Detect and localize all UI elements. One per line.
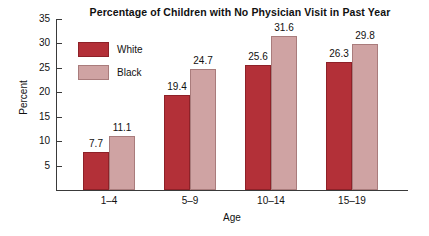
x-axis-group-label: 5–9 [155, 195, 225, 206]
y-axis-tick-label: 20 [16, 87, 50, 97]
bar-black [190, 69, 216, 190]
x-axis-group-label: 1–4 [74, 195, 144, 206]
bar-white [245, 65, 271, 190]
legend-swatch-white [78, 42, 109, 57]
bar-value-label: 24.7 [183, 56, 223, 66]
bar-white [326, 62, 352, 190]
plot-area: 7.711.119.424.725.631.626.329.8 [57, 19, 408, 190]
bar-value-label: 11.1 [102, 123, 142, 133]
x-axis-line [56, 190, 408, 191]
x-axis-label: Age [56, 212, 408, 223]
legend-swatch-black [78, 65, 109, 80]
legend-label-white: White [117, 44, 143, 55]
x-axis-group-label: 10–14 [236, 195, 306, 206]
chart-title: Percentage of Children with No Physician… [56, 6, 424, 18]
bar-black [352, 44, 378, 190]
bar-value-label: 31.6 [264, 23, 304, 33]
bar-white [164, 95, 190, 190]
y-axis-tick-label: 35 [16, 14, 50, 24]
legend-label-black: Black [117, 67, 141, 78]
y-axis-tick-label: 10 [16, 136, 50, 146]
chart-figure: Percentage of Children with No Physician… [0, 0, 429, 236]
y-axis-tick-label: 15 [16, 112, 50, 122]
bar-black [271, 36, 297, 190]
x-axis-group-label: 15–19 [317, 195, 387, 206]
bar-white [83, 152, 109, 190]
bar-value-label: 29.8 [345, 31, 385, 41]
y-axis-tick-label: 30 [16, 38, 50, 48]
y-axis-tick-label: 25 [16, 63, 50, 73]
bar-black [109, 136, 135, 190]
y-axis-tick-label: 5 [16, 161, 50, 171]
